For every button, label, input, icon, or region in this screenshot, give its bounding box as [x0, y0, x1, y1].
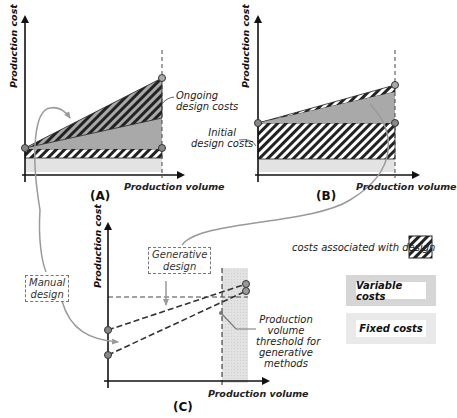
initial-design-costs-band-a: [25, 149, 162, 158]
initial-design-costs-label: Initial design costs: [191, 127, 253, 149]
point-a-top: [159, 75, 166, 82]
fixed-costs-area-a: [25, 158, 162, 172]
panel-a: [22, 17, 184, 182]
manual-design-box: Manual design: [25, 275, 69, 302]
legend-design-costs-label: costs associated with design: [292, 242, 435, 253]
x-axis-label-a: Production volume: [124, 182, 225, 192]
legend-variable-costs-label: Variable costs: [356, 282, 426, 299]
point-b-top: [392, 82, 399, 89]
x-axis-label-c: Production volume: [208, 389, 309, 399]
point-b-origin: [255, 120, 262, 127]
point-c-generative-end: [243, 281, 250, 288]
point-c-manual-end: [243, 288, 250, 295]
legend-fixed-costs-label: Fixed costs: [356, 320, 426, 337]
ongoing-design-costs-label: Ongoing design costs: [176, 90, 238, 112]
point-c-generative-start: [105, 327, 112, 334]
legend-variable-costs: Variable costs: [346, 275, 436, 306]
point-b-base: [392, 120, 399, 127]
point-a-base: [159, 145, 166, 152]
point-c-manual-start: [105, 352, 112, 359]
y-axis-label-c: Production cost: [92, 204, 103, 288]
y-axis-label-b: Production cost: [240, 4, 251, 88]
fixed-costs-area-b: [258, 159, 395, 172]
panel-label-b: (B): [316, 189, 336, 203]
generative-design-box: Generative design: [148, 247, 211, 274]
panel-label-a: (A): [90, 189, 110, 203]
panel-label-c: (C): [173, 400, 193, 414]
initial-design-costs-area-b: [258, 123, 395, 159]
threshold-label: Production volume threshold for generati…: [256, 314, 316, 369]
legend-fixed-costs: Fixed costs: [346, 313, 436, 344]
point-a-origin: [22, 145, 29, 152]
x-axis-label-b: Production volume: [356, 182, 457, 192]
y-axis-label-a: Production cost: [8, 4, 19, 88]
panel-b: [239, 17, 418, 182]
